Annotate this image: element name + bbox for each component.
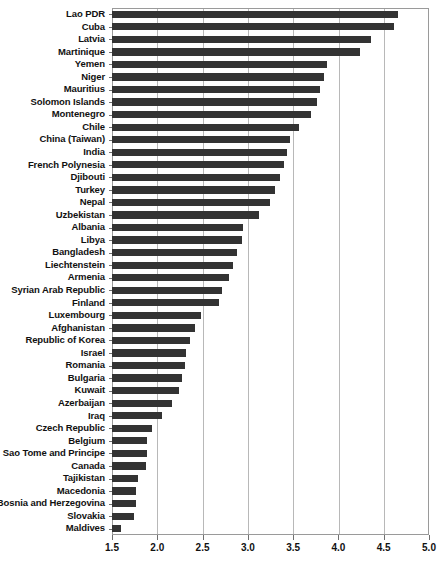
category-label: Montenegro (0, 108, 105, 121)
table-row: Turkey (0, 184, 445, 197)
table-row: Armenia (0, 271, 445, 284)
table-row: Mauritius (0, 83, 445, 96)
category-label: Albania (0, 221, 105, 234)
table-row: Montenegro (0, 108, 445, 121)
category-label: Republic of Korea (0, 334, 105, 347)
bar-rows: Lao PDRCubaLatviaMartiniqueYemenNigerMau… (0, 8, 445, 535)
category-label: Lao PDR (0, 8, 105, 21)
bar (112, 249, 237, 256)
bar (112, 48, 360, 55)
bar (112, 124, 299, 131)
category-label: China (Taiwan) (0, 133, 105, 146)
bar (112, 86, 320, 93)
category-label: Luxembourg (0, 309, 105, 322)
category-label: Finland (0, 297, 105, 310)
table-row: Tajikistan (0, 472, 445, 485)
category-label: Chile (0, 121, 105, 134)
table-row: Afghanistan (0, 322, 445, 335)
category-label: Uzbekistan (0, 209, 105, 222)
category-label: Macedonia (0, 485, 105, 498)
bar (112, 61, 327, 68)
bar (112, 400, 172, 407)
bar-chart: Lao PDRCubaLatviaMartiniqueYemenNigerMau… (0, 0, 445, 565)
bar (112, 500, 136, 507)
table-row: Belgium (0, 435, 445, 448)
axis-tick-label: 3.0 (241, 542, 255, 553)
axis-tick-label: 5.0 (422, 542, 436, 553)
table-row: Republic of Korea (0, 334, 445, 347)
category-label: Azerbaijan (0, 397, 105, 410)
table-row: Romania (0, 359, 445, 372)
bar (112, 437, 147, 444)
bar (112, 362, 185, 369)
bar (112, 224, 243, 231)
bar (112, 312, 201, 319)
table-row: Albania (0, 221, 445, 234)
axis-tick (293, 535, 294, 540)
axis-tick (429, 535, 430, 540)
table-row: Libya (0, 234, 445, 247)
category-label: Niger (0, 71, 105, 84)
category-label: Afghanistan (0, 322, 105, 335)
category-label: Iraq (0, 410, 105, 423)
bar (112, 161, 284, 168)
category-label: Israel (0, 347, 105, 360)
table-row: Cuba (0, 21, 445, 34)
category-label: Slovakia (0, 510, 105, 523)
axis-tick-label: 3.5 (286, 542, 300, 553)
x-axis-labels: 1.52.02.53.03.54.04.55.0 (0, 542, 445, 556)
category-label: Djibouti (0, 171, 105, 184)
category-label: Armenia (0, 271, 105, 284)
bar (112, 186, 275, 193)
category-label: Bosnia and Herzegovina (0, 497, 105, 510)
table-row: Bangladesh (0, 246, 445, 259)
category-label: French Polynesia (0, 159, 105, 172)
category-label: Latvia (0, 33, 105, 46)
table-row: Nepal (0, 196, 445, 209)
category-label: Mauritius (0, 83, 105, 96)
bar (112, 174, 280, 181)
table-row: Israel (0, 347, 445, 360)
table-row: French Polynesia (0, 159, 445, 172)
bar (112, 337, 190, 344)
category-label: Cuba (0, 21, 105, 34)
table-row: Sao Tome and Principe (0, 447, 445, 460)
axis-tick (157, 535, 158, 540)
table-row: Bosnia and Herzegovina (0, 497, 445, 510)
table-row: Chile (0, 121, 445, 134)
bar (112, 487, 136, 494)
table-row: Martinique (0, 46, 445, 59)
axis-tick (384, 535, 385, 540)
bar (112, 425, 152, 432)
category-label: Tajikistan (0, 472, 105, 485)
table-row: China (Taiwan) (0, 133, 445, 146)
category-label: Bulgaria (0, 372, 105, 385)
bar (112, 387, 179, 394)
axis-tick (338, 535, 339, 540)
category-label: Bangladesh (0, 246, 105, 259)
table-row: Luxembourg (0, 309, 445, 322)
axis-tick (112, 535, 113, 540)
axis-tick-label: 2.5 (196, 542, 210, 553)
table-row: Lao PDR (0, 8, 445, 21)
table-row: India (0, 146, 445, 159)
table-row: Macedonia (0, 485, 445, 498)
bar (112, 23, 394, 30)
category-label: India (0, 146, 105, 159)
bar (112, 324, 195, 331)
category-label: Yemen (0, 58, 105, 71)
table-row: Finland (0, 297, 445, 310)
table-row: Yemen (0, 58, 445, 71)
category-label: Libya (0, 234, 105, 247)
axis-tick-label: 1.5 (105, 542, 119, 553)
bar (112, 211, 259, 218)
category-label: Sao Tome and Principe (0, 447, 105, 460)
category-label: Martinique (0, 46, 105, 59)
axis-tick-label: 2.0 (150, 542, 164, 553)
category-label: Romania (0, 359, 105, 372)
bar (112, 287, 222, 294)
bar (112, 199, 270, 206)
table-row: Slovakia (0, 510, 445, 523)
bar (112, 349, 186, 356)
table-row: Niger (0, 71, 445, 84)
